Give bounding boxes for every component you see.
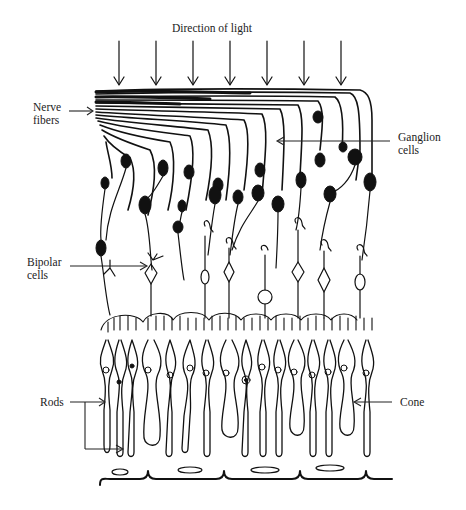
photoreceptor-layer: [100, 340, 373, 457]
light-arrow-icon: [151, 41, 161, 85]
nerve-fibers-label: Nerve fibers: [33, 101, 61, 127]
pigment-epithelium: [100, 471, 392, 485]
light-arrow-icon: [336, 41, 346, 85]
ganglion-cells-label: Ganglion cells: [398, 131, 441, 157]
bipolar-cells-label: Bipolar cells: [27, 256, 62, 282]
synaptic-layer: [101, 313, 372, 333]
light-arrow-icon: [188, 41, 198, 85]
retina-diagram: [0, 0, 466, 510]
light-arrow-icon: [299, 41, 309, 85]
cone-pointer-arrow-icon: [354, 398, 392, 406]
ganglion-cells: [96, 111, 376, 256]
rods-pointer-arrow-icon: [70, 398, 123, 453]
light-arrows: [114, 41, 346, 85]
light-arrow-icon: [262, 41, 272, 85]
ganglion-cells-pointer-arrow-icon: [277, 137, 390, 145]
rods-label: Rods: [40, 396, 64, 409]
cone-label: Cone: [400, 396, 424, 409]
nerve-fibers-pointer-arrow-icon: [69, 107, 93, 115]
direction-of-light-label: Direction of light: [172, 22, 252, 35]
light-arrow-icon: [114, 41, 124, 85]
light-arrow-icon: [225, 41, 235, 85]
